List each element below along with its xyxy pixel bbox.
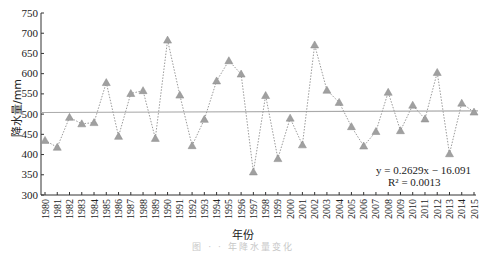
- x-tick-label: 2014: [456, 199, 467, 219]
- x-tick-label: 1986: [113, 199, 124, 219]
- x-tick-label: 2003: [321, 199, 332, 219]
- y-tick-label: 500: [22, 108, 39, 120]
- triangle-marker: [286, 114, 294, 121]
- x-tick-label: 2012: [432, 199, 443, 219]
- triangle-marker: [262, 92, 270, 99]
- y-tick-label: 650: [22, 47, 39, 59]
- x-tick-label: 2002: [309, 199, 320, 219]
- precipitation-line: [45, 40, 474, 172]
- y-tick-label: 700: [22, 27, 39, 39]
- x-tick-label: 1991: [174, 199, 185, 219]
- triangle-marker: [249, 168, 257, 175]
- x-tick-label: 2009: [395, 199, 406, 219]
- triangle-marker: [41, 136, 49, 143]
- x-tick-label: 1997: [248, 199, 259, 219]
- triangle-marker: [372, 128, 380, 135]
- x-tick-label: 1982: [64, 199, 75, 219]
- y-tick-label: 750: [22, 7, 39, 19]
- triangle-marker: [311, 41, 319, 48]
- triangle-marker: [470, 108, 478, 115]
- x-tick-label: 1993: [199, 199, 210, 219]
- y-tick-label: 450: [22, 128, 39, 140]
- y-axis-label: 降水量/mm: [8, 78, 24, 138]
- x-tick-label: 2000: [285, 199, 296, 219]
- triangle-marker: [433, 68, 441, 75]
- triangle-marker: [164, 36, 172, 43]
- triangle-marker: [335, 98, 343, 105]
- triangle-marker: [225, 57, 233, 64]
- y-tick-label: 350: [22, 168, 39, 180]
- triangle-marker: [421, 115, 429, 122]
- triangle-marker: [347, 123, 355, 130]
- triangle-marker: [139, 87, 147, 94]
- triangle-marker: [188, 142, 196, 149]
- y-tick-label: 550: [22, 87, 39, 99]
- x-tick-label: 1980: [40, 199, 51, 219]
- x-tick-label: 1995: [223, 199, 234, 219]
- x-tick-label: 1999: [272, 199, 283, 219]
- r-squared: R² = 0.0013: [376, 176, 471, 188]
- x-tick-label: 2006: [358, 199, 369, 219]
- triangle-marker: [396, 127, 404, 134]
- regression-annotation: y = 0.2629x − 16.091 R² = 0.0013: [376, 164, 471, 188]
- trend-line: [41, 111, 478, 113]
- x-tick-label: 2013: [444, 199, 455, 219]
- x-tick-label: 1996: [236, 199, 247, 219]
- x-tick-label: 2007: [370, 199, 381, 219]
- x-tick-label: 2008: [383, 199, 394, 219]
- triangle-marker: [298, 141, 306, 148]
- x-tick-label: 1981: [52, 199, 63, 219]
- x-tick-label: 1988: [138, 199, 149, 219]
- triangle-marker: [458, 99, 466, 106]
- x-tick-label: 2010: [407, 199, 418, 219]
- x-tick-label: 1985: [101, 199, 112, 219]
- y-tick-label: 600: [22, 67, 39, 79]
- triangle-marker: [323, 86, 331, 93]
- x-tick-label: 1998: [260, 199, 271, 219]
- triangle-marker: [445, 150, 453, 157]
- x-tick-label: 2004: [334, 199, 345, 219]
- triangle-marker: [384, 88, 392, 95]
- triangle-marker: [102, 79, 110, 86]
- x-tick-label: 1984: [89, 199, 100, 219]
- x-tick-label: 1987: [125, 199, 136, 219]
- y-tick-label: 400: [22, 148, 39, 160]
- triangle-marker: [176, 91, 184, 98]
- x-tick-label: 1992: [187, 199, 198, 219]
- triangle-marker: [274, 155, 282, 162]
- y-tick-label: 300: [22, 189, 39, 201]
- triangle-marker: [237, 70, 245, 77]
- figure-caption: 图 · · 年降水量变化: [0, 240, 486, 253]
- triangle-marker: [53, 143, 61, 150]
- triangle-marker: [115, 132, 123, 139]
- x-tick-label: 2015: [469, 199, 480, 219]
- triangle-marker: [151, 134, 159, 141]
- x-tick-label: 2005: [346, 199, 357, 219]
- triangle-marker: [66, 113, 74, 120]
- x-tick-label: 1989: [150, 199, 161, 219]
- triangle-marker: [90, 119, 98, 126]
- triangle-marker: [213, 77, 221, 84]
- x-tick-label: 2011: [419, 199, 430, 219]
- x-tick-label: 2001: [297, 199, 308, 219]
- regression-equation: y = 0.2629x − 16.091: [376, 164, 471, 176]
- x-tick-label: 1990: [162, 199, 173, 219]
- triangle-marker: [409, 101, 417, 108]
- x-tick-label: 1994: [211, 199, 222, 219]
- x-tick-label: 1983: [76, 199, 87, 219]
- triangle-marker: [200, 115, 208, 122]
